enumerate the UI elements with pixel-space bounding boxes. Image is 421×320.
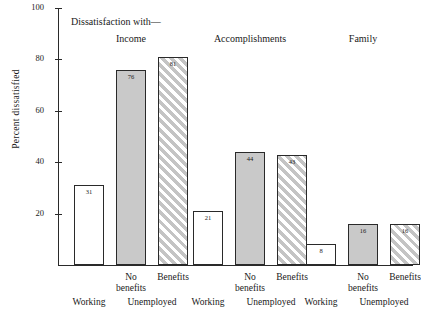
y-axis-tick-group: 10080604020: [0, 0, 62, 320]
bar-family-benefits: 16: [390, 224, 420, 265]
x-axis-tier1-label: Benefits: [389, 272, 421, 283]
y-axis-tick-label: 60: [14, 106, 44, 115]
x-axis-tier2-label-unemployed: Unemployed: [359, 297, 408, 308]
x-axis-baseline: [58, 265, 413, 266]
x-axis-tier1-label: Benefits: [276, 272, 308, 283]
bar-value-label: 76: [117, 74, 145, 81]
bar-value-label: 31: [75, 189, 103, 196]
x-axis-tier1-label: Benefits: [157, 272, 189, 283]
x-axis-tier1-label: No benefits: [348, 272, 378, 293]
x-axis-tier1-label: No benefits: [235, 272, 265, 293]
bar-family-no-benefits: 16: [348, 224, 378, 265]
bar-family-working: 8: [306, 244, 336, 265]
x-axis-tier2-label-working: Working: [191, 297, 224, 308]
bar-value-label: 8: [307, 248, 335, 255]
bar-accomplishments-no-benefits: 44: [235, 152, 265, 265]
x-axis-tier2-label-unemployed: Unemployed: [127, 297, 176, 308]
bar-accomplishments-working: 21: [193, 211, 223, 265]
bar-accomplishments-benefits: 43: [277, 155, 307, 266]
plot-area: 31768121444381616: [58, 8, 413, 265]
y-axis-tick-label: 80: [14, 54, 44, 63]
x-axis-tier1-label: No benefits: [116, 272, 146, 293]
bar-income-no-benefits: 76: [116, 70, 146, 265]
bar-income-working: 31: [74, 185, 104, 265]
x-axis-tier2-label-working: Working: [72, 297, 105, 308]
bar-value-label: 44: [236, 156, 264, 163]
x-axis-tier2-label-unemployed: Unemployed: [246, 297, 295, 308]
bar-value-label: 43: [278, 159, 306, 166]
bar-value-label: 21: [194, 215, 222, 222]
x-axis-tier2-label-working: Working: [304, 297, 337, 308]
y-axis-tick-label: 20: [14, 209, 44, 218]
y-axis-tick-label: 40: [14, 157, 44, 166]
bar-value-label: 16: [391, 228, 419, 235]
bar-value-label: 16: [349, 228, 377, 235]
bar-income-benefits: 81: [158, 57, 188, 265]
y-axis-tick-label: 100: [14, 3, 44, 12]
bar-value-label: 81: [159, 61, 187, 68]
